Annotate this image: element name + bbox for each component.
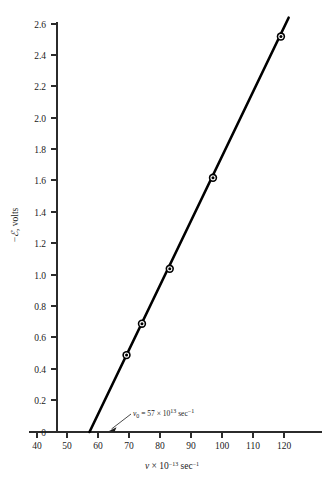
- annotation-arrow-line: [112, 414, 132, 429]
- y-tick-label: 0.4: [34, 365, 46, 375]
- annotation-unit-exponent: −1: [188, 408, 194, 414]
- data-point-marker: [209, 174, 217, 182]
- y-axis-title: −ℰ, volts: [10, 207, 20, 242]
- data-point-marker: [277, 32, 285, 40]
- y-axis-title-group: −ℰ, volts: [10, 207, 20, 242]
- y-tick-label: 1.4: [34, 208, 46, 218]
- annotation-times: ×: [155, 409, 163, 418]
- marker-inner-dot: [279, 35, 282, 38]
- data-series-group: [89, 18, 288, 432]
- y-tick-label: 0.8: [34, 302, 46, 312]
- x-axis-ticks: [37, 432, 284, 438]
- y-tick-label: 0.2: [34, 396, 46, 406]
- y-axis-ticks: [51, 24, 57, 432]
- data-point-marker: [138, 320, 146, 328]
- y-tick-label: 1.2: [34, 239, 46, 249]
- x-tick-label: 100: [215, 441, 230, 451]
- x-tick-label: 110: [246, 441, 260, 451]
- y-tick-label: 0: [41, 428, 46, 438]
- y-tick-label: 1.0: [34, 271, 46, 281]
- y-axis-title-rest: , volts: [10, 207, 20, 231]
- marker-inner-dot: [168, 267, 171, 270]
- annotation-label: v0 = 57 × 1013 sec−1: [133, 408, 194, 419]
- y-tick-label: 2.4: [34, 51, 46, 61]
- x-tick-label: 120: [277, 441, 292, 451]
- chart-svg: 2.6 2.4 2.2 2.0 1.8 1.6 1.4 1.2 1.0 0.8 …: [0, 0, 330, 480]
- photoelectric-effect-chart: 2.6 2.4 2.2 2.0 1.8 1.6 1.4 1.2 1.0 0.8 …: [0, 0, 330, 480]
- x-tick-label: 50: [62, 441, 72, 451]
- data-point-marker: [122, 351, 130, 359]
- x-tick-label: 80: [155, 441, 165, 451]
- marker-inner-dot: [140, 322, 143, 325]
- y-tick-label: 1.6: [34, 176, 46, 186]
- x-tick-label: 70: [124, 441, 134, 451]
- x-axis-title-exponent: −13: [169, 461, 178, 467]
- annotation-equals: =: [139, 409, 147, 418]
- x-axis-title-unit-exponent: −1: [193, 461, 199, 467]
- x-axis-title-times: ×: [149, 461, 159, 471]
- marker-inner-dot: [125, 354, 128, 357]
- x-tick-label: 90: [186, 441, 196, 451]
- fit-line: [89, 18, 288, 432]
- y-tick-label: 0.6: [34, 333, 46, 343]
- data-point-marker: [166, 265, 174, 273]
- marker-inner-dot: [211, 176, 214, 179]
- x-axis-tick-labels: 40 50 60 70 80 90 100 110 120: [32, 441, 291, 451]
- x-axis-title-mantissa: 10: [159, 461, 169, 471]
- x-axis-title-unit: sec: [181, 461, 193, 471]
- y-tick-label: 1.8: [34, 145, 46, 155]
- y-axis-tick-labels: 2.6 2.4 2.2 2.0 1.8 1.6 1.4 1.2 1.0 0.8 …: [34, 20, 46, 438]
- x-tick-label: 40: [32, 441, 42, 451]
- x-axis-title: v × 10−13 sec−1: [145, 461, 199, 472]
- y-tick-label: 2.6: [34, 20, 46, 30]
- y-tick-label: 2.2: [34, 82, 46, 92]
- axes-group: [29, 22, 322, 432]
- x-tick-label: 60: [93, 441, 103, 451]
- y-tick-label: 2.0: [34, 114, 46, 124]
- threshold-frequency-annotation: v0 = 57 × 1013 sec−1: [109, 408, 194, 432]
